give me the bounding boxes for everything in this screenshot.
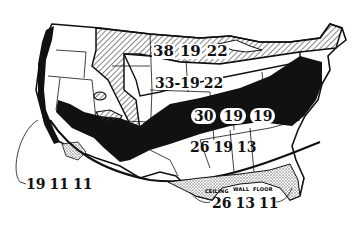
floor-value: 11 [259,196,278,210]
wall-value: 19 [220,108,245,124]
ceiling-value: 26 [190,140,209,154]
floor-value: 11 [73,177,92,191]
floor-value: 13 [237,140,256,154]
heading-floor: FLOOR [253,186,273,192]
wall-value: 22 [204,76,223,90]
ceiling-value: 19 [26,177,45,191]
wall-value: 11 [49,177,68,191]
zone-north-label: 381922 [152,44,233,59]
mountain-island-1 [94,92,106,100]
zone-south-central-label: 261913 [190,140,260,154]
floor-value: 22 [206,44,229,59]
ceiling-value: 26 [212,196,231,210]
floor-value: 19 [250,108,275,124]
zone-west-coast-label: 191111 [26,177,96,191]
wall-value: 13 [235,196,254,210]
ceiling-value: 38 [152,44,175,59]
zone-central-band-label: 301919 [191,108,279,124]
zone-upper-mid-label: 33-1922 [155,76,227,90]
heading-wall: WALL [233,186,249,192]
wall-value: 19 [179,44,202,59]
leader-west [16,120,38,184]
wall-value: 19 [213,140,232,154]
heading-ceiling: CEILING [205,188,229,194]
zone-gulf-coast-label: 261311 [212,196,282,210]
ceiling-value: 30 [191,108,216,124]
ceiling-value: 33-19 [155,76,200,90]
